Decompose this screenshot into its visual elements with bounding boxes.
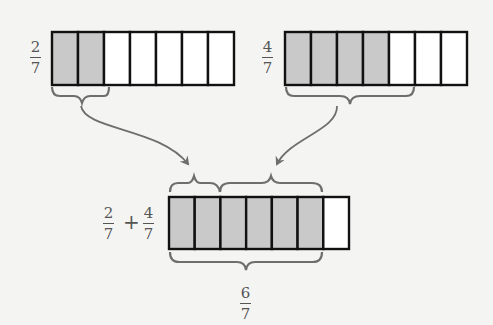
brace-over-bottom-first-part [170,176,220,192]
arrow-from-four-sevenths [277,106,337,164]
arrow-from-two-sevenths [81,106,188,164]
fraction-line [262,57,273,58]
shaded-cell [298,197,324,249]
denominator: 7 [263,61,273,76]
fraction-line [240,303,251,304]
fraction-line [103,223,114,224]
numerator: 4 [144,206,154,221]
fraction-bar-four-sevenths [285,32,467,85]
empty-cell [130,32,156,85]
shaded-cell [78,32,104,85]
brace-over-bottom-second-part [220,176,322,192]
shaded-cell [195,197,221,249]
empty-cell [182,32,208,85]
label-result-six-sevenths: 6 7 [240,286,251,322]
empty-cell [104,32,130,85]
numerator: 4 [263,40,273,55]
shaded-cell [285,32,311,85]
denominator: 7 [144,227,154,242]
denominator: 7 [241,307,251,322]
shaded-cell [272,197,298,249]
shaded-cell [337,32,363,85]
empty-cell [208,32,234,85]
plus-operator: + [123,212,140,232]
fraction-bar-six-sevenths [169,197,349,249]
shaded-cell [246,197,272,249]
empty-cell [415,32,441,85]
brace-under-two-sevenths [52,87,109,103]
label-four-sevenths: 4 7 [262,40,273,76]
brace-under-six-sevenths [170,252,322,270]
fraction-line [30,57,41,58]
denominator: 7 [31,61,41,76]
label-sum-right-four-sevenths: 4 7 [143,206,154,242]
shaded-cell [52,32,78,85]
empty-cell [156,32,182,85]
label-sum-left-two-sevenths: 2 7 [103,206,114,242]
fraction-bar-two-sevenths [52,32,234,85]
brace-under-four-sevenths [286,87,414,104]
empty-cell [389,32,415,85]
fraction-addition-diagram [0,0,493,325]
shaded-cell [220,197,246,249]
label-two-sevenths: 2 7 [30,40,41,76]
shaded-cell [169,197,195,249]
shaded-cell [363,32,389,85]
denominator: 7 [104,227,114,242]
empty-cell [323,197,349,249]
shaded-cell [311,32,337,85]
numerator: 2 [31,40,41,55]
empty-cell [441,32,467,85]
numerator: 6 [241,286,251,301]
numerator: 2 [104,206,114,221]
fraction-line [143,223,154,224]
